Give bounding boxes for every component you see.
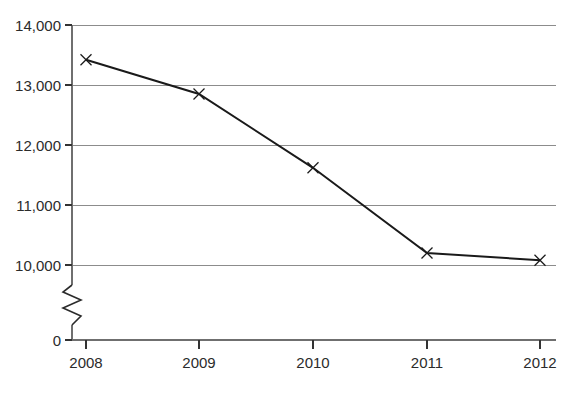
chart-canvas: 14,000 13,000 12,000 11,000 10,000 0 200…	[0, 0, 574, 393]
x-tick-label-2012: 2012	[523, 354, 556, 371]
y-tick-label-12000: 12,000	[15, 137, 61, 154]
x-tick-label-2009: 2009	[182, 354, 215, 371]
y-tick-label-11000: 11,000	[16, 197, 61, 214]
y-tick-label-14000: 14,000	[15, 17, 61, 34]
y-tick-label-10000: 10,000	[15, 257, 61, 274]
line-chart: 14,000 13,000 12,000 11,000 10,000 0 200…	[0, 0, 574, 393]
y-tick-label-zero: 0	[53, 332, 61, 349]
x-tick-label-2010: 2010	[296, 354, 329, 371]
x-tick-label-2008: 2008	[69, 354, 102, 371]
y-tick-label-13000: 13,000	[15, 77, 61, 94]
x-tick-label-2011: 2011	[411, 354, 443, 371]
